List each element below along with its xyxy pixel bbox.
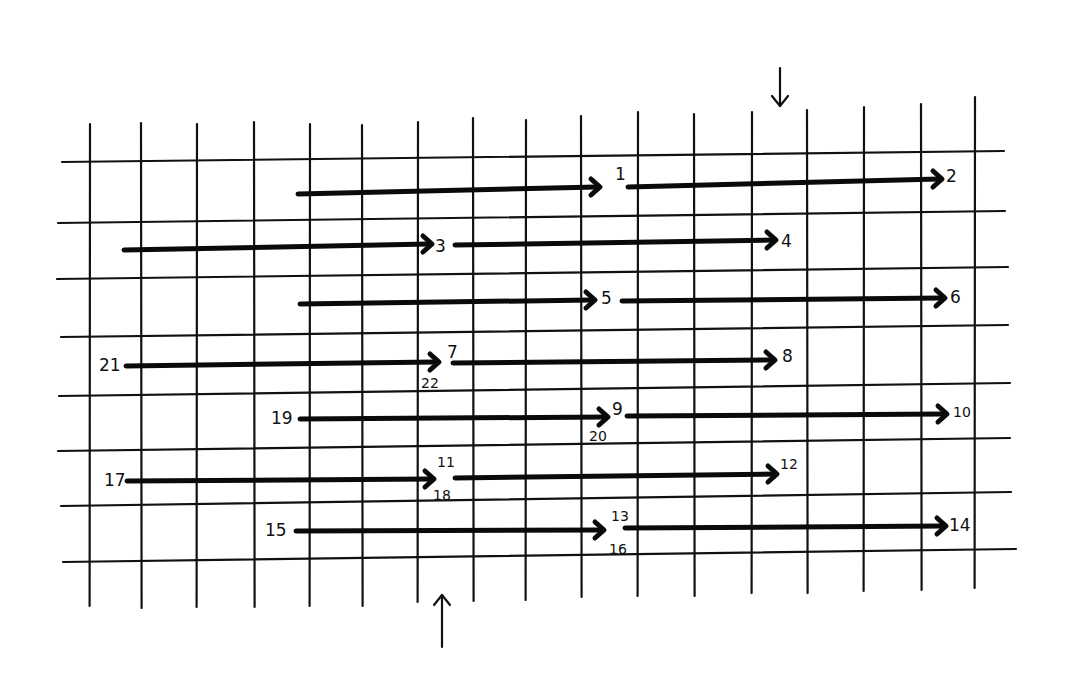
arrow-a4 [455,232,776,248]
arrow-a2 [628,171,942,187]
diagram-canvas: 12345678910111213141516171819202122 [0,0,1067,680]
arrow-shaft [296,530,601,531]
horizontal-grid-line [58,438,1010,451]
arrow-shaft [124,244,429,250]
point-label-15: 15 [265,520,287,540]
point-label-7: 7 [447,342,458,362]
arrow-a13 [296,522,604,538]
horizontal-grid-line [61,492,1011,506]
arrow-shaft [622,298,942,301]
horizontal-grid-line [59,383,1010,396]
horizontal-grid-line [63,549,1016,562]
point-label-19: 19 [271,408,293,428]
horizontal-grid-line [61,325,1008,337]
horizontal-grid-lines [57,151,1016,562]
vertical-grid-line [921,104,922,590]
point-label-6: 6 [950,287,961,307]
top-down-arrow-icon [772,68,788,106]
arrow-shaft [625,526,943,528]
arrow-a1 [298,179,600,195]
arrow-a14 [625,518,946,534]
bottom-up-arrow-icon [434,595,450,647]
point-label-17: 17 [104,470,126,490]
arrow-a6 [622,290,945,306]
arrow-shaft [628,179,939,187]
point-label-5: 5 [601,288,612,308]
point-label-4: 4 [781,231,792,251]
arrow-shaft [127,479,431,481]
horizontal-grid-line [57,267,1008,279]
numbered-arrows [124,171,947,538]
point-label-11: 11 [437,454,455,470]
point-label-21: 21 [99,355,121,375]
arrow-shaft [455,240,773,245]
arrow-shaft [455,474,774,478]
arrow-a9 [300,409,608,425]
arrow-shaft [453,360,772,363]
arrow-a10 [627,406,947,422]
arrow-a11 [127,471,434,487]
arrow-a7 [126,354,439,370]
point-label-16: 16 [609,541,627,557]
point-label-3: 3 [435,236,446,256]
vertical-grid-line [362,125,363,606]
arrow-shaft [627,414,944,416]
point-label-9: 9 [612,399,623,419]
point-label-12: 12 [780,456,798,472]
arrow-a3 [124,236,432,252]
point-label-8: 8 [782,346,793,366]
arrow-shaft [126,362,436,366]
point-label-13: 13 [611,508,629,524]
arrow-a8 [453,352,775,368]
point-label-20: 20 [589,428,607,444]
arrow-a5 [300,292,595,308]
point-label-1: 1 [615,164,626,184]
point-label-18: 18 [433,487,451,503]
arrow-shaft [298,187,597,194]
point-label-22: 22 [421,375,439,391]
point-label-2: 2 [946,166,957,186]
point-label-14: 14 [949,515,971,535]
horizontal-grid-line [62,151,1004,162]
point-label-10: 10 [953,404,971,420]
arrow-shaft [300,300,592,304]
arrow-a12 [455,466,777,482]
arrow-shaft [300,417,605,419]
